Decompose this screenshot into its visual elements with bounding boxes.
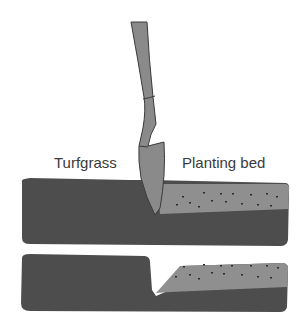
planting-bed-layer (158, 184, 289, 214)
planting-bed-label: Planting bed (182, 154, 265, 171)
lower-soil-panel (21, 254, 288, 312)
spade-edging-diagram: Turfgrass Planting bed (0, 0, 305, 329)
turfgrass-label: Turfgrass (54, 154, 117, 171)
